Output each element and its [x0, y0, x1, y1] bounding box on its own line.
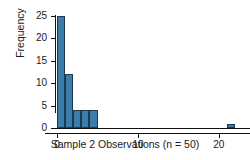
y-tick-label: 15 — [36, 56, 47, 66]
y-tick-mark — [51, 16, 55, 17]
plot-baseline — [55, 128, 250, 129]
y-tick: 25 — [51, 16, 55, 17]
y-tick: 20 — [51, 38, 55, 39]
plot-area: 0510152025 01020 — [57, 16, 239, 113]
y-tick-mark — [51, 38, 55, 39]
y-tick-mark — [51, 83, 55, 84]
histogram-bar — [65, 74, 73, 128]
y-tick-mark — [51, 106, 55, 107]
y-tick-label: 20 — [36, 33, 47, 43]
y-tick-label: 25 — [36, 11, 47, 21]
y-axis-spine — [55, 15, 56, 113]
y-tick: 5 — [51, 106, 55, 107]
histogram-bar — [81, 110, 89, 128]
histogram-bar — [227, 124, 235, 128]
y-tick-label: 0 — [41, 123, 47, 133]
y-tick: 15 — [51, 61, 55, 62]
histogram-bar — [73, 110, 81, 128]
y-axis-title: Frequency — [13, 0, 27, 83]
y-tick: 10 — [51, 83, 55, 84]
y-tick: 0 — [51, 128, 55, 129]
histogram-bar — [57, 16, 65, 128]
x-axis-title: Sample 2 Observations (n = 50) — [0, 138, 250, 150]
histogram-bar — [89, 110, 97, 128]
y-tick-label: 5 — [41, 101, 47, 111]
y-tick-label: 10 — [36, 78, 47, 88]
y-tick-mark — [51, 128, 55, 129]
histogram-figure: Frequency 0510152025 01020 Sample 2 Obse… — [0, 0, 250, 160]
y-tick-mark — [51, 61, 55, 62]
